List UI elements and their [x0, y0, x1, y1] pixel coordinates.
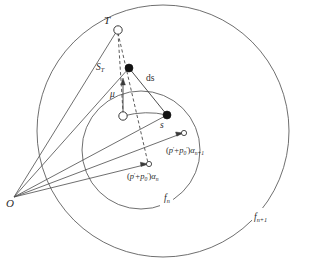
- diagram-canvas: [0, 0, 315, 258]
- alpha-sub-np1: n+1: [195, 150, 204, 156]
- dashed-T-to-alpha-n-target: [118, 33, 148, 163]
- label-ds: ds: [146, 74, 154, 84]
- label-f-n: fn: [164, 194, 170, 204]
- label-s: s: [160, 121, 164, 131]
- ray-O-to-alpha-np1-target: [14, 133, 183, 197]
- label-f-np1-subscript: n+1: [257, 216, 268, 223]
- label-ds-text: ds: [146, 73, 154, 83]
- node-upper-filled-marker: [125, 64, 133, 72]
- label-formula-alpha-n: (p′+p0′)αn: [127, 172, 159, 182]
- label-apex-T: T: [104, 15, 110, 26]
- node-alpha-np1-target-marker: [181, 130, 186, 135]
- label-f-n-plus-1: fn+1: [254, 213, 267, 223]
- node-s-filled-marker: [163, 111, 171, 119]
- label-formula-alpha-n-plus-1: (p′+p0′)αn+1: [166, 146, 204, 156]
- node-T-marker: [114, 26, 122, 34]
- geometry-figure: T O ST μ ds s fn fn+1 (p′+p0′)αn+1 (p′+p…: [0, 0, 315, 258]
- label-origin-O: O: [6, 198, 14, 209]
- node-alpha-n-target-marker: [146, 161, 151, 166]
- node-center-marker: [119, 112, 127, 120]
- outer-circle-f-n-plus-1: [37, 5, 289, 257]
- label-S-subscript: T: [101, 66, 105, 73]
- label-mu: μ: [110, 90, 115, 100]
- arc-center-to-s: [123, 113, 167, 116]
- ray-O-to-upper-point: [14, 68, 129, 197]
- label-f-n-subscript: n: [167, 197, 170, 204]
- label-arc-length-S-T: ST: [96, 63, 104, 73]
- alpha-sub-n: n: [156, 176, 159, 182]
- ray-O-to-T: [14, 29, 118, 197]
